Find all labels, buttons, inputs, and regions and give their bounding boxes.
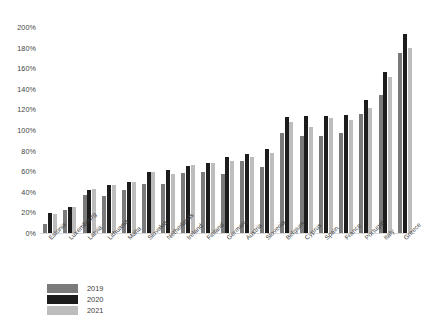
bar-2021 — [309, 127, 313, 233]
y-axis: 200%180%160%140%120%100%80%60%40%20%0% — [0, 0, 40, 328]
bar-group — [257, 27, 277, 233]
y-axis-tick-label: 0% — [0, 229, 36, 238]
bar-2020 — [364, 100, 368, 233]
legend-swatch — [47, 306, 78, 315]
bar-2020 — [225, 157, 229, 233]
plot-area — [40, 27, 415, 233]
bar-group — [395, 27, 415, 233]
bar-2020 — [285, 117, 289, 233]
bar-2021 — [388, 77, 392, 233]
bar-2020 — [265, 149, 269, 233]
legend-label: 2021 — [87, 306, 103, 315]
legend-label: 2020 — [87, 295, 103, 304]
bar-2021 — [151, 172, 155, 233]
bar-group — [237, 27, 257, 233]
bar-2021 — [191, 165, 195, 233]
bar-2020 — [324, 116, 328, 233]
bar-2019 — [319, 136, 323, 233]
bar-group — [139, 27, 159, 233]
legend-swatch — [47, 284, 78, 293]
bar-2021 — [230, 161, 234, 233]
bar-2020 — [127, 182, 131, 234]
bar-2019 — [359, 114, 363, 233]
bar-2021 — [329, 118, 333, 233]
bar-group — [336, 27, 356, 233]
y-axis-tick-label: 200% — [0, 23, 36, 32]
bar-2020 — [304, 116, 308, 233]
bar-2021 — [250, 157, 254, 233]
bar-group — [79, 27, 99, 233]
bar-group — [198, 27, 218, 233]
bar-2021 — [349, 120, 353, 233]
bar-group — [277, 27, 297, 233]
bar-2021 — [171, 174, 175, 233]
bar-group — [297, 27, 317, 233]
bar-2021 — [270, 153, 274, 233]
legend-item: 2019 — [47, 283, 103, 294]
bar-2021 — [368, 108, 372, 233]
legend-item: 2020 — [47, 294, 103, 305]
bar-2021 — [211, 163, 215, 233]
bar-2020 — [403, 34, 407, 233]
y-axis-tick-label: 120% — [0, 105, 36, 114]
bar-2019 — [142, 184, 146, 233]
y-axis-tick-label: 60% — [0, 167, 36, 176]
bar-2020 — [344, 115, 348, 233]
bar-chart: 200%180%160%140%120%100%80%60%40%20%0% 2… — [0, 0, 424, 328]
bar-2020 — [107, 185, 111, 233]
bar-group — [376, 27, 396, 233]
bar-2021 — [289, 122, 293, 233]
bar-group — [119, 27, 139, 233]
bar-2019 — [339, 133, 343, 233]
y-axis-tick-label: 100% — [0, 126, 36, 135]
bar-2020 — [147, 172, 151, 233]
y-axis-tick-label: 20% — [0, 208, 36, 217]
y-axis-tick-label: 40% — [0, 187, 36, 196]
bar-2020 — [206, 163, 210, 233]
y-axis-tick-label: 80% — [0, 146, 36, 155]
bar-2021 — [408, 48, 412, 233]
bar-group — [218, 27, 238, 233]
y-axis-tick-label: 140% — [0, 84, 36, 93]
bar-2020 — [383, 72, 387, 233]
bar-2019 — [260, 167, 264, 233]
legend-label: 2019 — [87, 284, 103, 293]
bar-2019 — [398, 53, 402, 233]
chart-legend: 201920202021 — [47, 283, 103, 316]
y-axis-tick-label: 180% — [0, 43, 36, 52]
bar-group — [158, 27, 178, 233]
bar-2020 — [68, 207, 72, 233]
bar-group — [316, 27, 336, 233]
bar-group — [356, 27, 376, 233]
bar-group — [60, 27, 80, 233]
bar-group — [99, 27, 119, 233]
bar-2019 — [379, 95, 383, 233]
legend-item: 2021 — [47, 305, 103, 316]
legend-swatch — [47, 295, 78, 304]
bar-2019 — [43, 224, 47, 233]
bar-group — [178, 27, 198, 233]
y-axis-tick-label: 160% — [0, 64, 36, 73]
bar-group — [40, 27, 60, 233]
